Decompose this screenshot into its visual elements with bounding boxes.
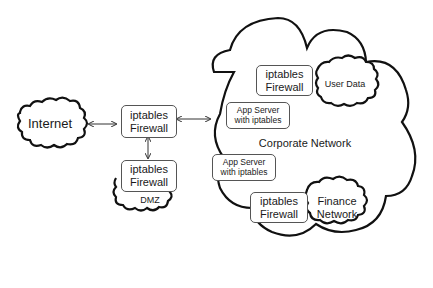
finance-label-line1: Finance <box>311 195 363 208</box>
dmz-firewall-line1: iptables <box>130 163 168 176</box>
dmz-firewall-line2: Firewall <box>130 176 168 189</box>
user-data-firewall-box: iptables Firewall <box>256 65 313 96</box>
diagram-canvas <box>0 0 433 288</box>
dmz-firewall-box: iptables Firewall <box>121 160 177 192</box>
main-firewall-line1: iptables <box>130 109 168 122</box>
user-data-firewall-line1: iptables <box>266 68 304 81</box>
finance-firewall-box: iptables Firewall <box>250 192 308 223</box>
internet-label: Internet <box>26 117 74 132</box>
user-data-firewall-line2: Firewall <box>266 81 304 94</box>
finance-firewall-line1: iptables <box>260 195 298 208</box>
finance-firewall-line2: Firewall <box>260 208 298 221</box>
app-server-box-1: App Server with iptables <box>226 102 290 129</box>
main-firewall-line2: Firewall <box>130 122 168 135</box>
finance-network-label: Finance Network <box>311 195 363 220</box>
corporate-network-label: Corporate Network <box>250 137 360 150</box>
dmz-label: DMZ <box>130 195 170 205</box>
finance-label-line2: Network <box>311 208 363 221</box>
app-server-2-line2: with iptables <box>221 168 268 178</box>
main-firewall-box: iptables Firewall <box>121 105 177 138</box>
user-data-label: User Data <box>317 79 373 89</box>
app-server-box-2: App Server with iptables <box>212 154 276 181</box>
app-server-1-line2: with iptables <box>235 116 282 126</box>
